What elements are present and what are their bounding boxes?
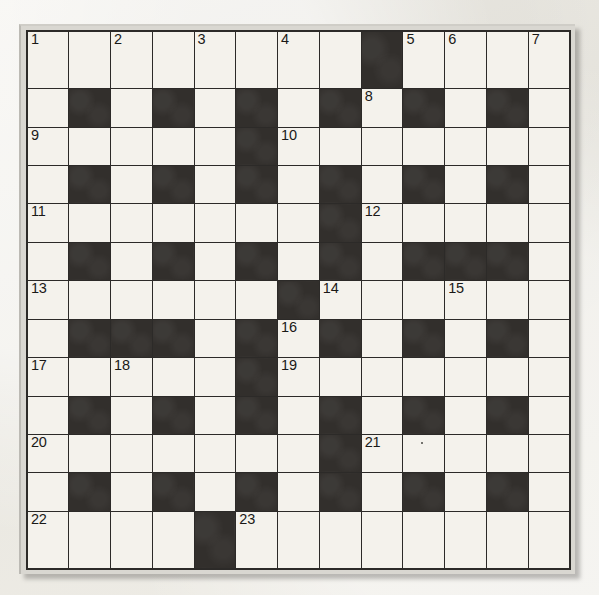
letter-square[interactable] [445, 127, 487, 165]
letter-square[interactable]: 5 [403, 31, 445, 89]
letter-square[interactable]: 11 [27, 204, 69, 242]
letter-square[interactable] [69, 511, 111, 569]
letter-square[interactable] [319, 31, 361, 89]
letter-square[interactable] [111, 434, 153, 472]
letter-square[interactable] [111, 511, 153, 569]
letter-square[interactable]: 10 [278, 127, 320, 165]
letter-square[interactable] [319, 511, 361, 569]
letter-square[interactable] [319, 358, 361, 396]
letter-square[interactable] [152, 358, 194, 396]
letter-square[interactable] [528, 242, 570, 280]
letter-square[interactable] [69, 204, 111, 242]
letter-square[interactable] [445, 396, 487, 434]
letter-square[interactable] [361, 319, 403, 357]
letter-square[interactable]: 8 [361, 89, 403, 127]
letter-square[interactable] [27, 165, 69, 203]
letter-square[interactable]: 18 [111, 358, 153, 396]
letter-square[interactable] [27, 396, 69, 434]
letter-square[interactable] [27, 89, 69, 127]
letter-square[interactable] [486, 281, 528, 319]
letter-square[interactable] [194, 396, 236, 434]
letter-square[interactable] [403, 281, 445, 319]
letter-square[interactable] [194, 165, 236, 203]
letter-square[interactable] [528, 127, 570, 165]
letter-square[interactable] [111, 473, 153, 511]
letter-square[interactable] [111, 127, 153, 165]
letter-square[interactable]: 23 [236, 511, 278, 569]
letter-square[interactable] [152, 511, 194, 569]
letter-square[interactable] [278, 165, 320, 203]
letter-square[interactable] [486, 358, 528, 396]
letter-square[interactable] [445, 89, 487, 127]
letter-square[interactable]: 6 [445, 31, 487, 89]
letter-square[interactable] [361, 127, 403, 165]
letter-square[interactable] [194, 242, 236, 280]
letter-square[interactable] [152, 434, 194, 472]
letter-square[interactable] [403, 358, 445, 396]
letter-square[interactable] [194, 434, 236, 472]
letter-square[interactable] [528, 434, 570, 472]
letter-square[interactable] [236, 31, 278, 89]
letter-square[interactable] [486, 31, 528, 89]
letter-square[interactable] [361, 281, 403, 319]
letter-square[interactable] [194, 358, 236, 396]
letter-square[interactable] [111, 165, 153, 203]
letter-square[interactable]: 12 [361, 204, 403, 242]
letter-square[interactable] [27, 473, 69, 511]
letter-square[interactable] [111, 204, 153, 242]
letter-square[interactable]: 13 [27, 281, 69, 319]
letter-square[interactable] [194, 127, 236, 165]
letter-square[interactable] [528, 473, 570, 511]
letter-square[interactable]: 20 [27, 434, 69, 472]
letter-square[interactable] [69, 358, 111, 396]
letter-square[interactable] [278, 511, 320, 569]
letter-square[interactable] [403, 204, 445, 242]
letter-square[interactable] [278, 434, 320, 472]
letter-square[interactable] [528, 358, 570, 396]
letter-square[interactable] [528, 281, 570, 319]
letter-square[interactable]: 3 [194, 31, 236, 89]
letter-square[interactable] [152, 204, 194, 242]
letter-square[interactable]: 14 [319, 281, 361, 319]
letter-square[interactable] [194, 89, 236, 127]
letter-square[interactable] [236, 434, 278, 472]
letter-square[interactable] [486, 434, 528, 472]
letter-square[interactable] [111, 242, 153, 280]
letter-square[interactable] [278, 242, 320, 280]
letter-square[interactable] [69, 281, 111, 319]
letter-square[interactable] [69, 31, 111, 89]
letter-square[interactable] [486, 127, 528, 165]
letter-square[interactable]: 17 [27, 358, 69, 396]
letter-square[interactable] [528, 204, 570, 242]
letter-square[interactable] [445, 319, 487, 357]
letter-square[interactable]: 4 [278, 31, 320, 89]
letter-square[interactable]: 15 [445, 281, 487, 319]
letter-square[interactable] [111, 281, 153, 319]
letter-square[interactable]: 2 [111, 31, 153, 89]
letter-square[interactable] [361, 473, 403, 511]
letter-square[interactable]: 9 [27, 127, 69, 165]
letter-square[interactable] [403, 127, 445, 165]
letter-square[interactable] [361, 242, 403, 280]
letter-square[interactable]: 1 [27, 31, 69, 89]
letter-square[interactable] [278, 204, 320, 242]
letter-square[interactable] [194, 204, 236, 242]
letter-square[interactable] [27, 242, 69, 280]
letter-square[interactable] [111, 396, 153, 434]
letter-square[interactable] [111, 89, 153, 127]
letter-square[interactable] [361, 165, 403, 203]
letter-square[interactable] [152, 31, 194, 89]
letter-square[interactable] [194, 319, 236, 357]
letter-square[interactable] [403, 434, 445, 472]
letter-square[interactable] [403, 511, 445, 569]
letter-square[interactable] [445, 473, 487, 511]
letter-square[interactable] [486, 204, 528, 242]
letter-square[interactable]: 21 [361, 434, 403, 472]
letter-square[interactable] [278, 396, 320, 434]
letter-square[interactable] [236, 281, 278, 319]
letter-square[interactable] [278, 473, 320, 511]
crossword-grid[interactable]: 1234567891011121314151617181920212223 [26, 30, 571, 570]
letter-square[interactable] [528, 396, 570, 434]
letter-square[interactable] [69, 434, 111, 472]
letter-square[interactable] [194, 473, 236, 511]
